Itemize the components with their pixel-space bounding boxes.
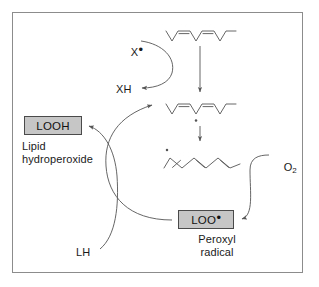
caption-lipid-hydroperoxide: Lipid hydroperoxide bbox=[22, 140, 114, 165]
label-oxygen-subscript: 2 bbox=[292, 166, 297, 175]
arrow-o2-to-loo bbox=[242, 155, 269, 219]
arrow-x-to-xh bbox=[141, 41, 173, 88]
diene-radical-dot bbox=[166, 149, 169, 152]
structure-lipid-radical bbox=[166, 104, 236, 114]
lipid-radical-dot bbox=[195, 119, 198, 122]
label-oxygen: O2 bbox=[271, 148, 297, 188]
label-abstracted-hydrogen: XH bbox=[116, 83, 131, 96]
species-box-loo-label: LOO bbox=[191, 214, 216, 226]
initiator-radical-dot: • bbox=[139, 42, 144, 57]
structure-conjugated-diene-radical bbox=[164, 158, 240, 168]
arrow-loo-to-lipid-radical bbox=[106, 105, 172, 220]
species-box-looh[interactable]: LOOH bbox=[24, 116, 82, 135]
species-box-loo[interactable]: LOO• bbox=[178, 210, 234, 229]
label-initiator-radical-text: X bbox=[131, 46, 138, 58]
species-box-looh-label: LOOH bbox=[36, 120, 69, 132]
lipid-peroxidation-figure: LOOH LOO• Lipid hydroperoxide Peroxyl ra… bbox=[0, 0, 319, 287]
label-oxygen-text: O bbox=[284, 161, 293, 173]
label-initiator-radical: X• bbox=[118, 33, 143, 71]
caption-peroxyl-radical: Peroxyl radical bbox=[177, 233, 257, 258]
label-lipid-substrate: LH bbox=[76, 246, 90, 259]
structure-polyunsaturated-lipid bbox=[166, 31, 236, 41]
